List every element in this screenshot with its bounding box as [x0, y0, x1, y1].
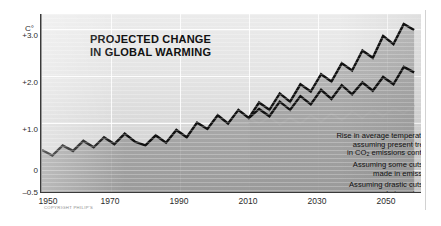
- climate-chart-figure: PROJECTED CHANGE IN GLOBAL WARMING Rise …: [0, 0, 441, 226]
- legend-high-co2-post: emissions continue: [369, 148, 421, 157]
- legend-label-low: Assuming drastic cuts are made in emissi…: [349, 181, 421, 192]
- x-tick-label-1970: 1970: [101, 196, 120, 206]
- legend-label-medium: Assuming some cuts are made in emissions: [353, 161, 421, 178]
- y-tick-label-1: +1.0: [4, 126, 38, 134]
- y-tick-label-0: 0: [4, 167, 38, 175]
- chart-title-line-1: PROJECTED CHANGE: [90, 33, 300, 46]
- legend-label-high: Rise in average temperatures assuming pr…: [336, 132, 421, 159]
- chart-legend: Rise in average temperatures assuming pr…: [238, 132, 421, 192]
- chart-plot-area: PROJECTED CHANGE IN GLOBAL WARMING Rise …: [41, 14, 421, 192]
- page-gutter-rule: [425, 10, 426, 210]
- y-tick-label-3: +3.0: [4, 32, 38, 40]
- x-tick-label-2030: 2030: [308, 196, 327, 206]
- legend-medium-line-2: made in emissions: [353, 170, 421, 179]
- y-axis-line: [40, 14, 41, 193]
- legend-item-high: Rise in average temperatures assuming pr…: [336, 132, 421, 159]
- legend-high-co2-pre: in CO: [347, 148, 366, 157]
- x-tick-label-2050: 2050: [377, 196, 396, 206]
- chart-title: PROJECTED CHANGE IN GLOBAL WARMING: [90, 33, 300, 58]
- copyright-notice: COPYRIGHT PHILIP'S: [44, 205, 93, 210]
- y-tick-label-2: +2.0: [4, 79, 38, 87]
- legend-item-low: Assuming drastic cuts are made in emissi…: [349, 181, 421, 192]
- legend-item-medium: Assuming some cuts are made in emissions: [353, 161, 421, 178]
- x-axis-line: [40, 192, 421, 193]
- x-tick-label-2010: 2010: [239, 196, 258, 206]
- x-tick-label-1990: 1990: [170, 196, 189, 206]
- chart-title-line-2: IN GLOBAL WARMING: [90, 46, 300, 59]
- legend-high-line-3: in CO2 emissions continue: [336, 149, 421, 159]
- y-axis-labels: C° +3.0 +2.0 +1.0 0 –0.5: [0, 0, 38, 226]
